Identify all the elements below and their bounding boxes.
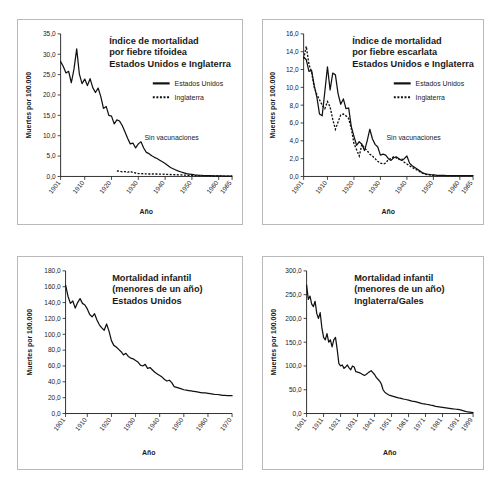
y-tick-label: 10,0 bbox=[286, 84, 299, 91]
x-tick-label: 1991 bbox=[446, 416, 461, 432]
x-tick-label: 1965 bbox=[218, 179, 233, 195]
x-tick-label: 1999 bbox=[459, 416, 474, 432]
y-tick-label: 100,0 bbox=[285, 362, 302, 369]
y-tick-label: 8,0 bbox=[290, 102, 299, 109]
x-tick-label: 1940 bbox=[151, 179, 166, 195]
chart-panel-infant-mortality-england-wales: Mortalidad infantil(menores de un año)In… bbox=[262, 256, 484, 470]
x-tick-label: 1941 bbox=[361, 416, 376, 432]
y-tick-label: 0,0 bbox=[52, 410, 61, 417]
x-tick-label: 1901 bbox=[290, 179, 305, 195]
x-tick-label: 1981 bbox=[429, 416, 444, 432]
x-tick-label: 1950 bbox=[170, 416, 185, 432]
y-tick-label: 250,0 bbox=[285, 291, 302, 298]
y-tick-label: 30,0 bbox=[43, 51, 56, 58]
x-axis-title: Año bbox=[382, 208, 395, 215]
scarlet-fever-plot-group: Índice de mortalidadpor fiebre escarlata… bbox=[269, 30, 475, 215]
y-tick-label: 4,0 bbox=[290, 137, 299, 144]
x-tick-label: 1910 bbox=[314, 179, 329, 195]
y-tick-label: 10,0 bbox=[43, 132, 56, 139]
y-axis-title: Muertes por 100.000 bbox=[25, 72, 33, 139]
x-tick-label: 1960 bbox=[205, 179, 220, 195]
y-tick-label: 50,0 bbox=[289, 386, 302, 393]
x-tick-label: 1901 bbox=[293, 416, 308, 432]
y-tick-label: 25,0 bbox=[43, 71, 56, 78]
x-tick-label: 1965 bbox=[459, 179, 474, 195]
x-tick-label: 1901 bbox=[47, 179, 62, 195]
x-tick-label: 1960 bbox=[194, 416, 209, 432]
x-tick-label: 1910 bbox=[74, 416, 89, 432]
x-tick-label: 1971 bbox=[412, 416, 427, 432]
y-tick-label: 15,0 bbox=[43, 112, 56, 119]
y-tick-label: 160,0 bbox=[44, 283, 61, 290]
x-tick-label: 1940 bbox=[393, 179, 408, 195]
x-tick-label: 1950 bbox=[420, 179, 435, 195]
y-tick-label: 6,0 bbox=[290, 119, 299, 126]
x-tick-label: 1901 bbox=[52, 416, 67, 432]
x-tick-label: 1911 bbox=[310, 416, 324, 432]
infant-mortality-england-wales-chart-svg: Mortalidad infantil(menores de un año)In… bbox=[263, 257, 483, 469]
x-tick-label: 1960 bbox=[446, 179, 461, 195]
x-tick-label: 1920 bbox=[98, 179, 113, 195]
y-tick-label: 140,0 bbox=[44, 299, 61, 306]
scarlet-fever-chart-svg: Índice de mortalidadpor fiebre escarlata… bbox=[263, 20, 483, 224]
x-tick-label: 1931 bbox=[344, 416, 359, 432]
chart-annotation: Sin vacunaciones bbox=[144, 134, 199, 141]
x-tick-label: 1930 bbox=[125, 179, 140, 195]
chart-title-line: por fiebre escarlata bbox=[352, 47, 438, 57]
chart-title-line: (menores de un año) bbox=[354, 284, 445, 294]
legend-label: Estados Unidos bbox=[175, 80, 224, 87]
y-tick-label: 5,0 bbox=[47, 152, 56, 159]
typhoid-chart-svg: Índice de mortalidadpor fiebre tifoideaE… bbox=[18, 20, 242, 224]
y-tick-label: 14,0 bbox=[286, 48, 299, 55]
y-tick-label: 200,0 bbox=[285, 315, 302, 322]
y-tick-label: 2,0 bbox=[290, 155, 299, 162]
y-tick-label: 120,0 bbox=[44, 315, 61, 322]
y-tick-label: 150,0 bbox=[285, 339, 302, 346]
y-tick-label: 16,0 bbox=[286, 30, 299, 37]
legend-label: Inglaterra bbox=[175, 94, 204, 102]
infant-mortality-us-plot-group: Mortalidad infantil(menores de un año)Es… bbox=[26, 267, 233, 456]
x-tick-label: 1961 bbox=[395, 416, 410, 432]
y-tick-label: 0,0 bbox=[47, 173, 56, 180]
chart-title-line: Mortalidad infantil bbox=[112, 273, 191, 283]
chart-title-line: Estados Unidos bbox=[112, 296, 182, 306]
x-axis-title: Año bbox=[140, 208, 153, 215]
x-tick-label: 1970 bbox=[218, 416, 233, 432]
legend-label: Estados Unidos bbox=[416, 80, 465, 87]
y-tick-label: 12,0 bbox=[286, 66, 299, 73]
x-tick-label: 1921 bbox=[327, 416, 342, 432]
y-tick-label: 20,0 bbox=[43, 91, 56, 98]
chart-title-line: Inglaterra/Gales bbox=[354, 296, 424, 306]
infant-mortality-england-wales-plot-group: Mortalidad infantil(menores de un año)In… bbox=[270, 267, 474, 456]
x-tick-label: 1920 bbox=[98, 416, 113, 432]
x-tick-label: 1930 bbox=[122, 416, 137, 432]
y-tick-label: 35,0 bbox=[43, 30, 56, 37]
y-tick-label: 300,0 bbox=[285, 267, 302, 274]
y-tick-label: 60,0 bbox=[48, 362, 61, 369]
series-line bbox=[304, 57, 473, 176]
four-panel-mortality-figure: Índice de mortalidadpor fiebre tifoideaE… bbox=[0, 0, 499, 488]
chart-panel-scarlet-fever: Índice de mortalidadpor fiebre escarlata… bbox=[262, 19, 484, 225]
y-tick-label: 100,0 bbox=[44, 331, 61, 338]
x-tick-label: 1920 bbox=[340, 179, 355, 195]
chart-panel-infant-mortality-us: Mortalidad infantil(menores de un año)Es… bbox=[17, 256, 243, 470]
chart-title-line: Mortalidad infantil bbox=[354, 273, 433, 283]
x-axis-title: Año bbox=[383, 449, 396, 456]
chart-title-line: Índice de mortalidad bbox=[109, 36, 199, 46]
infant-mortality-us-chart-svg: Mortalidad infantil(menores de un año)Es… bbox=[18, 257, 242, 469]
typhoid-plot-group: Índice de mortalidadpor fiebre tifoideaE… bbox=[25, 30, 233, 215]
y-tick-label: 20,0 bbox=[48, 394, 61, 401]
chart-title-line: Estados Unidos e Inglaterra bbox=[352, 59, 475, 69]
x-axis-title: Año bbox=[142, 449, 155, 456]
chart-title-line: (menores de un año) bbox=[112, 284, 203, 294]
x-tick-label: 1951 bbox=[378, 416, 393, 432]
y-axis-title: Muertes por 100.000 bbox=[26, 309, 34, 376]
x-tick-label: 1940 bbox=[146, 416, 161, 432]
chart-annotation: Sin vacunaciones bbox=[386, 134, 441, 141]
y-tick-label: 0,0 bbox=[290, 173, 299, 180]
y-axis-title: Muertes por 100.000 bbox=[269, 72, 277, 139]
y-axis-title: Muertes por 100.000 bbox=[270, 309, 278, 376]
x-tick-label: 1950 bbox=[178, 179, 193, 195]
x-tick-label: 1910 bbox=[71, 179, 86, 195]
chart-title-line: Estados Unidos e Inglaterra bbox=[109, 59, 232, 69]
